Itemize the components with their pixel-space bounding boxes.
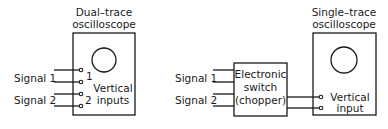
chopper-setup: Signal 1 Signal 2 Electronic switch (cho… [175, 6, 376, 116]
single-trace-title-line1: Single–trace [312, 6, 377, 18]
single-trace-title-line2: oscilloscope [312, 18, 376, 30]
right-signal-2-label: Signal 2 [175, 94, 217, 106]
switch-label-line1: Electronic [235, 68, 287, 80]
dual-trace-title-line1: Dual–trace [76, 6, 132, 18]
oscilloscope-diagram: Dual–trace oscilloscope Signal 1 Signal … [0, 0, 388, 129]
terminal-icon [79, 92, 83, 96]
terminal-icon [79, 80, 83, 84]
vertical-inputs-line1: Vertical [93, 82, 132, 94]
terminal-icon [79, 104, 83, 108]
channel-2-label: 2 [85, 94, 92, 106]
terminal-icon [319, 106, 323, 110]
terminal-icon [79, 68, 83, 72]
channel-1-label: 1 [86, 70, 93, 82]
single-trace-screen-icon [331, 47, 357, 73]
terminal-icon [319, 95, 323, 99]
dual-trace-screen-icon [92, 48, 116, 72]
left-signal-1-label: Signal 1 [14, 72, 56, 84]
left-signal-2-label: Signal 2 [14, 94, 56, 106]
vertical-inputs-line2: inputs [97, 94, 129, 106]
dual-trace-setup: Dual–trace oscilloscope Signal 1 Signal … [14, 6, 136, 115]
switch-label-line2: switch [244, 81, 278, 93]
switch-label-line3: (chopper) [235, 94, 286, 106]
dual-trace-title-line2: oscilloscope [72, 18, 136, 30]
right-signal-1-label: Signal 1 [175, 72, 217, 84]
vertical-input-line2: input [336, 102, 363, 114]
